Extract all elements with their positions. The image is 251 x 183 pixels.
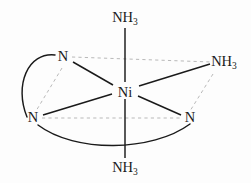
guide-right-vertical <box>190 74 213 111</box>
bond-ni-amine-lower-right <box>138 96 181 115</box>
guide-equatorial-upper <box>72 57 211 62</box>
atom-label-amine-lower-left: N <box>28 109 39 125</box>
bond-ni-ammine-right <box>139 64 210 86</box>
coordination-complex-diagram: NH3 NH3 NH3 N N N Ni <box>0 0 251 183</box>
guide-left-vertical <box>36 68 62 111</box>
bond-ni-amine-upper-left <box>73 62 113 85</box>
ammine-top-formula: NH <box>112 9 133 25</box>
ammine-right-formula: NH <box>211 53 232 69</box>
structure-svg: NH3 NH3 NH3 N N N Ni <box>0 0 251 183</box>
atom-label-ammine-right: NH3 <box>211 53 237 71</box>
atom-label-ammine-bottom: NH3 <box>112 159 138 177</box>
ammine-right-subscript: 3 <box>232 61 237 71</box>
ammine-bottom-subscript: 3 <box>133 167 138 177</box>
atom-label-amine-upper-left: N <box>58 48 69 64</box>
atom-label-amine-lower-right: N <box>185 109 196 125</box>
atom-label-center-ni: Ni <box>118 84 133 100</box>
chelate-arc-group <box>22 55 190 146</box>
bond-ni-amine-lower-left <box>43 94 112 115</box>
ammine-top-subscript: 3 <box>133 17 138 27</box>
atom-label-ammine-top: NH3 <box>112 9 138 27</box>
ammine-bottom-formula: NH <box>112 159 133 175</box>
atom-label-group: NH3 NH3 NH3 N N N Ni <box>28 9 237 177</box>
chelate-arc-bottom <box>38 124 190 146</box>
